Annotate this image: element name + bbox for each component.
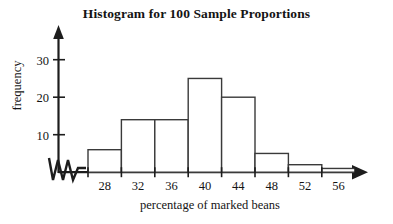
y-axis <box>53 25 64 173</box>
x-tick-label: 44 <box>232 179 245 193</box>
histogram-bar <box>155 120 188 173</box>
histogram-bar <box>288 165 321 173</box>
y-tick-label: 30 <box>37 54 50 68</box>
y-axis-arrow-icon <box>53 25 64 39</box>
y-ticks: 30 20 10 <box>37 54 66 143</box>
x-tick-label: 32 <box>132 179 145 193</box>
histogram-bar <box>222 97 255 172</box>
histogram-bar <box>188 78 221 172</box>
x-tick-label: 56 <box>332 179 345 193</box>
histogram-bar <box>255 153 288 172</box>
bar-series <box>88 78 355 172</box>
histogram-bar <box>88 150 121 173</box>
y-tick-label: 10 <box>37 129 50 143</box>
histogram-figure: Histogram for 100 Sample Proportions fre… <box>0 0 393 224</box>
y-tick-label: 20 <box>37 91 50 105</box>
x-tick-label: 36 <box>165 179 178 193</box>
x-tick-label: 28 <box>98 179 111 193</box>
histogram-bar <box>322 168 355 172</box>
axis-break-zigzag-icon <box>49 158 86 180</box>
x-tick-label: 52 <box>299 179 312 193</box>
histogram-bar <box>121 120 154 173</box>
x-tick-label: 48 <box>265 179 278 193</box>
plot-area: 30 20 10 2832364044485256 <box>0 0 393 224</box>
x-tick-label: 40 <box>199 179 212 193</box>
